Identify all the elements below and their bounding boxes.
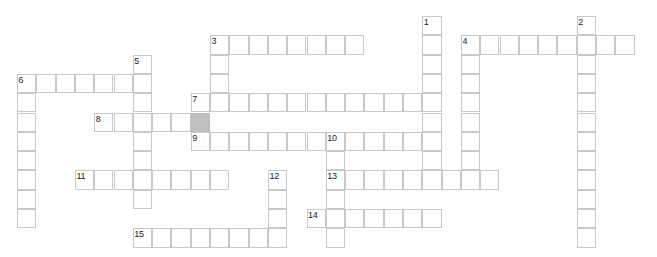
crossword-cell[interactable]	[577, 74, 596, 93]
crossword-cell[interactable]	[17, 74, 36, 93]
crossword-cell[interactable]	[403, 170, 422, 189]
crossword-cell[interactable]	[326, 151, 345, 170]
crossword-cell[interactable]	[210, 55, 229, 74]
crossword-cell[interactable]	[114, 113, 133, 132]
crossword-cell[interactable]	[287, 132, 306, 151]
crossword-cell[interactable]	[480, 170, 499, 189]
crossword-cell[interactable]	[133, 132, 152, 151]
crossword-cell[interactable]	[17, 170, 36, 189]
crossword-cell[interactable]	[152, 113, 171, 132]
crossword-cell[interactable]	[461, 151, 480, 170]
crossword-cell[interactable]	[422, 74, 441, 93]
crossword-cell[interactable]	[133, 190, 152, 209]
crossword-cell[interactable]	[268, 190, 287, 209]
crossword-cell[interactable]	[152, 170, 171, 189]
crossword-cell[interactable]	[17, 93, 36, 112]
crossword-cell[interactable]	[133, 74, 152, 93]
crossword-cell[interactable]	[210, 228, 229, 247]
crossword-cell[interactable]	[577, 16, 596, 35]
crossword-cell[interactable]	[577, 132, 596, 151]
crossword-cell[interactable]	[287, 93, 306, 112]
crossword-cell[interactable]	[345, 132, 364, 151]
crossword-cell[interactable]	[577, 151, 596, 170]
crossword-cell[interactable]	[75, 74, 94, 93]
crossword-cell[interactable]	[422, 170, 441, 189]
crossword-cell-shaded[interactable]	[191, 113, 210, 132]
crossword-cell[interactable]	[364, 93, 383, 112]
crossword-cell[interactable]	[422, 132, 441, 151]
crossword-cell[interactable]	[133, 93, 152, 112]
crossword-cell[interactable]	[577, 228, 596, 247]
crossword-cell[interactable]	[461, 113, 480, 132]
crossword-cell[interactable]	[171, 113, 190, 132]
crossword-cell[interactable]	[268, 228, 287, 247]
crossword-cell[interactable]	[577, 190, 596, 209]
crossword-cell[interactable]	[94, 74, 113, 93]
crossword-cell[interactable]	[191, 132, 210, 151]
crossword-cell[interactable]	[326, 170, 345, 189]
crossword-cell[interactable]	[364, 209, 383, 228]
crossword-cell[interactable]	[17, 151, 36, 170]
crossword-cell[interactable]	[345, 170, 364, 189]
crossword-cell[interactable]	[191, 228, 210, 247]
crossword-cell[interactable]	[577, 93, 596, 112]
crossword-cell[interactable]	[384, 170, 403, 189]
crossword-cell[interactable]	[384, 93, 403, 112]
crossword-cell[interactable]	[133, 55, 152, 74]
crossword-cell[interactable]	[210, 93, 229, 112]
crossword-cell[interactable]	[364, 132, 383, 151]
crossword-cell[interactable]	[384, 132, 403, 151]
crossword-cell[interactable]	[461, 74, 480, 93]
crossword-cell[interactable]	[403, 132, 422, 151]
crossword-cell[interactable]	[307, 93, 326, 112]
crossword-cell[interactable]	[422, 151, 441, 170]
crossword-cell[interactable]	[326, 209, 345, 228]
crossword-cell[interactable]	[461, 132, 480, 151]
crossword-cell[interactable]	[133, 151, 152, 170]
crossword-cell[interactable]	[615, 35, 634, 54]
crossword-cell[interactable]	[229, 93, 248, 112]
crossword-cell[interactable]	[577, 209, 596, 228]
crossword-cell[interactable]	[326, 132, 345, 151]
crossword-cell[interactable]	[210, 170, 229, 189]
crossword-cell[interactable]	[229, 35, 248, 54]
crossword-cell[interactable]	[229, 228, 248, 247]
crossword-cell[interactable]	[345, 93, 364, 112]
crossword-cell[interactable]	[557, 35, 576, 54]
crossword-cell[interactable]	[191, 93, 210, 112]
crossword-cell[interactable]	[56, 74, 75, 93]
crossword-cell[interactable]	[596, 35, 615, 54]
crossword-cell[interactable]	[249, 228, 268, 247]
crossword-cell[interactable]	[422, 35, 441, 54]
crossword-cell[interactable]	[422, 93, 441, 112]
crossword-cell[interactable]	[345, 35, 364, 54]
crossword-cell[interactable]	[500, 35, 519, 54]
crossword-cell[interactable]	[345, 209, 364, 228]
crossword-cell[interactable]	[17, 113, 36, 132]
crossword-cell[interactable]	[307, 209, 326, 228]
crossword-cell[interactable]	[442, 170, 461, 189]
crossword-cell[interactable]	[577, 113, 596, 132]
crossword-cell[interactable]	[17, 190, 36, 209]
crossword-cell[interactable]	[422, 113, 441, 132]
crossword-cell[interactable]	[17, 209, 36, 228]
crossword-cell[interactable]	[152, 228, 171, 247]
crossword-cell[interactable]	[133, 113, 152, 132]
crossword-cell[interactable]	[384, 209, 403, 228]
crossword-cell[interactable]	[171, 228, 190, 247]
crossword-cell[interactable]	[307, 35, 326, 54]
crossword-cell[interactable]	[210, 132, 229, 151]
crossword-cell[interactable]	[461, 170, 480, 189]
crossword-cell[interactable]	[461, 55, 480, 74]
crossword-cell[interactable]	[133, 228, 152, 247]
crossword-cell[interactable]	[403, 93, 422, 112]
crossword-cell[interactable]	[480, 35, 499, 54]
crossword-cell[interactable]	[326, 190, 345, 209]
crossword-cell[interactable]	[249, 35, 268, 54]
crossword-cell[interactable]	[249, 132, 268, 151]
crossword-cell[interactable]	[171, 170, 190, 189]
crossword-cell[interactable]	[94, 113, 113, 132]
crossword-cell[interactable]	[75, 170, 94, 189]
crossword-cell[interactable]	[403, 209, 422, 228]
crossword-cell[interactable]	[461, 93, 480, 112]
